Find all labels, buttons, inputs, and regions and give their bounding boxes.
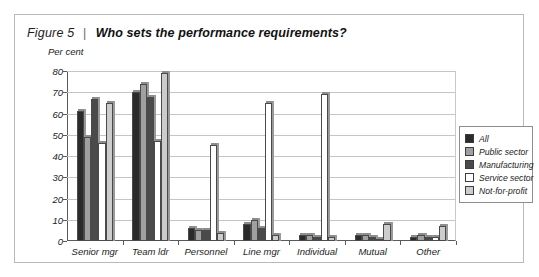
bar-face: [202, 230, 209, 241]
bar-face: [188, 228, 195, 241]
bar-face: [195, 230, 202, 241]
y-axis-title: Per cent: [48, 46, 83, 57]
legend-item[interactable]: Service sector: [465, 171, 528, 184]
bar: [161, 73, 168, 241]
bar: [299, 235, 306, 241]
x-axis-tick: [456, 241, 457, 245]
bar-face: [161, 73, 168, 241]
y-axis-tick-label: 0: [35, 236, 63, 247]
bar: [195, 230, 202, 241]
y-axis-tick-label: 80: [35, 66, 63, 77]
bar-group: [400, 71, 456, 241]
bar: [417, 235, 424, 241]
bar-group: [123, 71, 179, 241]
bar-face: [432, 237, 439, 241]
y-axis-tick-label: 40: [35, 151, 63, 162]
bar-face: [328, 237, 335, 241]
bar-face: [417, 235, 424, 241]
bar: [132, 92, 139, 241]
bar-face: [369, 237, 376, 241]
bar: [106, 103, 113, 241]
bar: [140, 84, 147, 241]
bar-group: [289, 71, 345, 241]
x-axis-tick-label: Personnel: [185, 246, 228, 257]
bar-face: [306, 235, 313, 241]
bar: [210, 145, 217, 241]
chart-legend: AllPublic sectorManufacturingService sec…: [459, 126, 533, 203]
legend-item-label: Manufacturing: [479, 160, 533, 170]
bar: [77, 111, 84, 241]
bar-side-shading: [335, 235, 337, 241]
bar-face: [140, 84, 147, 241]
bar-face: [84, 137, 91, 241]
bar-face: [106, 103, 113, 241]
bar-side-shading: [113, 101, 115, 241]
bar: [217, 233, 224, 242]
bar: [439, 226, 446, 241]
bar-group: [178, 71, 234, 241]
figure-title: Who sets the performance requirements?: [96, 26, 347, 40]
bar-face: [265, 103, 272, 241]
x-axis-tick-label: Individual: [297, 246, 337, 257]
bar: [306, 235, 313, 241]
x-axis-tick: [234, 241, 235, 245]
x-axis-tick: [178, 241, 179, 245]
figure-number: Figure 5: [27, 26, 74, 40]
bar-side-shading: [272, 101, 274, 241]
bar-side-shading: [391, 222, 393, 241]
x-axis-tick-label: Team ldr: [132, 246, 169, 257]
bar-group: [345, 71, 401, 241]
bar-side-shading: [279, 233, 281, 241]
legend-item[interactable]: Not-for-profit: [465, 184, 528, 197]
y-axis-tick-label: 50: [35, 129, 63, 140]
bar-face: [439, 226, 446, 241]
bar-group: [67, 71, 123, 241]
legend-item[interactable]: Public sector: [465, 145, 528, 158]
bar-group: [234, 71, 290, 241]
legend-item[interactable]: Manufacturing: [465, 158, 528, 171]
legend-swatch-icon: [465, 134, 474, 143]
legend-swatch-icon: [465, 147, 474, 156]
legend-item-label: Service sector: [479, 173, 533, 183]
bar-face: [210, 145, 217, 241]
bar-face: [313, 237, 320, 241]
x-axis-tick-label: Mutual: [358, 246, 387, 257]
bar-face: [132, 92, 139, 241]
bar-face: [383, 224, 390, 241]
legend-item[interactable]: All: [465, 132, 528, 145]
y-axis-tick-label: 30: [35, 172, 63, 183]
x-axis-tick: [123, 241, 124, 245]
bar-face: [272, 235, 279, 241]
y-axis-tick-label: 20: [35, 193, 63, 204]
bar-side-shading: [217, 143, 219, 241]
bar: [321, 94, 328, 241]
bar: [258, 228, 265, 241]
bar-face: [243, 224, 250, 241]
bar-face: [410, 237, 417, 241]
bar-side-shading: [224, 231, 226, 242]
bar-face: [98, 143, 105, 241]
bar: [265, 103, 272, 241]
bar-face: [91, 99, 98, 241]
bar-face: [154, 141, 161, 241]
bar-face: [77, 111, 84, 241]
bar: [376, 239, 383, 241]
bar: [91, 99, 98, 241]
x-axis-tick-label: Line mgr: [243, 246, 280, 257]
bar-face: [299, 235, 306, 241]
bar: [355, 235, 362, 241]
bar: [154, 141, 161, 241]
bar: [251, 220, 258, 241]
bar-face: [251, 220, 258, 241]
x-axis-tick: [345, 241, 346, 245]
y-axis-tick-label: 10: [35, 214, 63, 225]
y-axis-tick: [63, 241, 67, 242]
legend-item-label: Not-for-profit: [479, 186, 527, 196]
bar: [432, 237, 439, 241]
bar-face: [376, 239, 383, 241]
bar: [202, 230, 209, 241]
bar: [84, 137, 91, 241]
x-axis-tick-label: Senior mgr: [72, 246, 118, 257]
bar: [328, 237, 335, 241]
y-axis-tick-label: 70: [35, 87, 63, 98]
